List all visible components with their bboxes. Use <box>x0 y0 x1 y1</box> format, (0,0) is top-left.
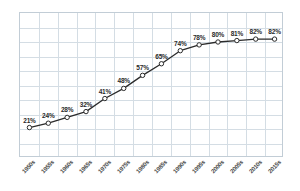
x-axis-tick-label: 1965s <box>78 159 93 174</box>
data-point-marker <box>254 37 258 41</box>
x-axis-tick-labels: 1950s1955s1960s1965s1970s1975s1980s1985s… <box>19 157 283 191</box>
data-point-label: 21% <box>23 117 35 124</box>
series-markers <box>27 37 277 130</box>
data-point-label: 48% <box>117 77 129 84</box>
data-point-label: 28% <box>61 106 73 113</box>
x-axis-tick-label: 2005s <box>229 159 244 174</box>
data-point-label: 24% <box>42 112 54 119</box>
data-point-marker <box>140 73 144 77</box>
x-axis-tick-label: 2010s <box>248 159 263 174</box>
data-point-marker <box>122 86 126 90</box>
data-point-marker <box>216 40 220 44</box>
series-svg <box>20 13 284 158</box>
data-point-marker <box>178 49 182 53</box>
x-axis-tick-label: 1960s <box>59 159 74 174</box>
data-point-marker <box>272 37 276 41</box>
x-axis-tick-label: 1990s <box>172 159 187 174</box>
data-point-marker <box>46 121 50 125</box>
data-point-label: 32% <box>80 101 92 108</box>
x-axis-tick-label: 2000s <box>210 159 225 174</box>
x-axis-tick-label: 1985s <box>153 159 168 174</box>
data-point-label: 81% <box>231 30 243 37</box>
data-point-label: 78% <box>193 34 205 41</box>
x-axis-tick-label: 2015s <box>266 159 281 174</box>
data-point-label: 80% <box>212 31 224 38</box>
series-line <box>29 39 274 127</box>
data-point-marker <box>103 96 107 100</box>
x-axis-tick-label: 1955s <box>40 159 55 174</box>
data-point-label: 57% <box>136 64 148 71</box>
plot-area: 21%24%28%32%41%48%57%65%74%78%80%81%82%8… <box>19 12 283 157</box>
data-point-marker <box>65 115 69 119</box>
data-point-label: 82% <box>249 28 261 35</box>
x-axis-tick-label: 1995s <box>191 159 206 174</box>
data-point-label: 74% <box>174 40 186 47</box>
data-point-label: 82% <box>268 28 280 35</box>
data-point-label: 41% <box>99 88 111 95</box>
x-axis-tick-label: 1975s <box>116 159 131 174</box>
line-chart: 21%24%28%32%41%48%57%65%74%78%80%81%82%8… <box>0 0 300 191</box>
x-axis-tick-label: 1950s <box>21 159 36 174</box>
data-point-marker <box>159 62 163 66</box>
data-point-marker <box>197 43 201 47</box>
x-axis-tick-label: 1980s <box>134 159 149 174</box>
data-point-marker <box>27 125 31 129</box>
data-point-marker <box>235 38 239 42</box>
data-point-marker <box>84 109 88 113</box>
data-point-label: 65% <box>155 53 167 60</box>
x-axis-tick-label: 1970s <box>97 159 112 174</box>
